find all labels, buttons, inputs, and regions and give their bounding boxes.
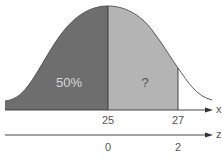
- x-tick-27: 27: [172, 114, 184, 126]
- right-region-unknown: [108, 6, 178, 110]
- z-tick-0: 0: [105, 141, 111, 153]
- z-axis-arrow-icon: [205, 133, 213, 138]
- x-axis-arrow-icon: [205, 108, 213, 113]
- x-tick-25: 25: [102, 114, 114, 126]
- z-tick-2: 2: [175, 141, 181, 153]
- right-region-label: ?: [141, 75, 148, 90]
- left-region-label: 50%: [56, 75, 82, 90]
- z-axis-name: z: [216, 128, 222, 140]
- normal-distribution-diagram: 50% ? x 25 27 z 0 2: [0, 0, 222, 159]
- x-axis-name: x: [216, 103, 222, 115]
